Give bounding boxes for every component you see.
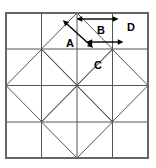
figure-labels-group: ABCD [66, 21, 135, 71]
quilt-diagram-svg: ABCD [0, 0, 156, 168]
label-a: A [66, 37, 74, 49]
label-b: B [97, 24, 105, 36]
dimension-arrows-group [67, 19, 118, 44]
quilt-diagram-figure: ABCD [0, 0, 156, 168]
label-c: C [94, 59, 102, 71]
label-d: D [127, 21, 135, 33]
